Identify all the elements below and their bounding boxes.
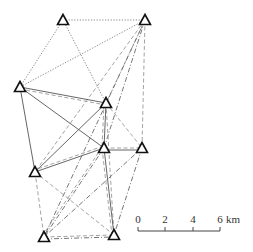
edge-S1-S3: [20, 20, 63, 87]
scale-bar: 0246 km: [135, 213, 240, 231]
station-markers: [15, 15, 151, 242]
scale-tick-label: 2: [162, 213, 168, 225]
edge-S7-S9: [35, 172, 114, 235]
edge-S5-S8: [42, 147, 102, 236]
edge-S8-S9: [44, 237, 114, 239]
network-graphic: 0246 km: [0, 0, 253, 252]
triangulation-network-diagram: 0246 km: [0, 0, 253, 252]
edge-S2-S6: [142, 20, 145, 148]
edge-S4-S7: [35, 103, 106, 172]
edge-S4-S5: [102, 103, 104, 148]
scale-bar-unit: km: [226, 213, 241, 225]
edge-S3-S7: [20, 87, 35, 172]
edge-S3-S4: [20, 87, 106, 103]
scale-tick-label: 0: [135, 213, 141, 225]
edge-S2-S7: [35, 20, 145, 172]
edge-S7-S8: [35, 172, 44, 237]
station-triangle-icon: [15, 82, 26, 92]
edge-S2-S5: [104, 20, 145, 148]
edge-S5-S9: [104, 148, 114, 235]
edge-S3-S4: [20, 89, 106, 105]
station-triangle-icon: [140, 15, 151, 25]
scale-bar-ticks: 0246: [135, 213, 223, 231]
edge-S5-S8: [44, 148, 104, 237]
station-triangle-icon: [109, 230, 120, 240]
scale-tick-label: 6: [217, 213, 223, 225]
scale-tick-label: 4: [190, 213, 196, 225]
station-triangle-icon: [137, 143, 148, 153]
station-triangle-icon: [58, 15, 69, 25]
edge-S2-S3: [20, 20, 145, 87]
network-edges: [20, 20, 145, 239]
edge-S5-S9: [102, 148, 112, 235]
edge-S8-S9: [44, 235, 114, 237]
edge-S1-S4: [63, 20, 106, 103]
